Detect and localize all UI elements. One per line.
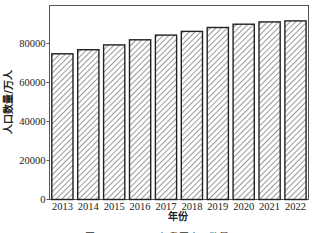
x-tick-label: 2014 (78, 201, 100, 212)
x-tick-label: 2016 (130, 201, 151, 212)
bar-2022 (285, 21, 306, 200)
x-tick-label: 2021 (259, 201, 280, 212)
bar-2015 (104, 45, 125, 200)
figure-caption: 图 2013—2022年我国人口数量 (0, 226, 314, 233)
x-tick-label: 2022 (285, 201, 306, 212)
bar-2019 (207, 28, 228, 200)
bar-2017 (155, 35, 176, 199)
bars-group (52, 21, 306, 200)
y-tick-label: 40000 (19, 116, 45, 127)
x-axis-title: 年份 (168, 210, 189, 222)
bar-2018 (181, 31, 202, 199)
bar-2020 (233, 24, 254, 199)
x-tick-label: 2013 (52, 201, 73, 212)
bar-2021 (259, 22, 280, 200)
x-tick-label: 2020 (233, 201, 254, 212)
x-tick-label: 2019 (207, 201, 228, 212)
bar-2013 (52, 54, 73, 200)
y-tick-label: 0 (40, 194, 45, 205)
y-tick-label: 80000 (19, 38, 45, 49)
bar-chart: 020000400006000080000 201320142015201620… (0, 0, 314, 226)
y-axis-ticks: 020000400006000080000 (19, 38, 49, 205)
figure-caption-text: 图 2013—2022年我国人口数量 (85, 231, 229, 233)
y-tick-label: 20000 (19, 155, 45, 166)
bar-2016 (130, 40, 151, 200)
bar-2014 (78, 50, 99, 200)
y-tick-label: 60000 (19, 77, 45, 88)
y-axis-title: 人口数量/万人 (2, 69, 14, 134)
x-tick-label: 2015 (104, 201, 125, 212)
